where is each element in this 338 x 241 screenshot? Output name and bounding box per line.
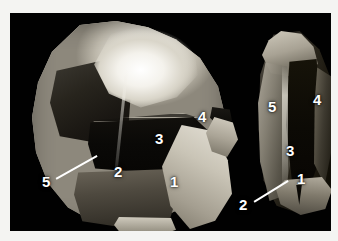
label-right-3: 3 <box>286 143 294 158</box>
label-right-1: 1 <box>297 171 305 186</box>
label-left-2: 2 <box>114 164 122 179</box>
figure-container: 1 2 3 4 5 1 2 3 4 5 <box>0 0 338 241</box>
main-crystal-base-facet <box>114 217 176 231</box>
label-right-5: 5 <box>268 99 276 114</box>
label-right-2: 2 <box>239 197 247 212</box>
side-crystal <box>252 31 331 213</box>
photograph <box>10 13 331 231</box>
label-left-3: 3 <box>155 131 163 146</box>
side-crystal-edge-highlight <box>282 65 288 191</box>
label-left-4: 4 <box>198 109 206 124</box>
label-left-5: 5 <box>42 174 50 189</box>
label-right-4: 4 <box>313 92 321 107</box>
label-left-1: 1 <box>170 174 178 189</box>
